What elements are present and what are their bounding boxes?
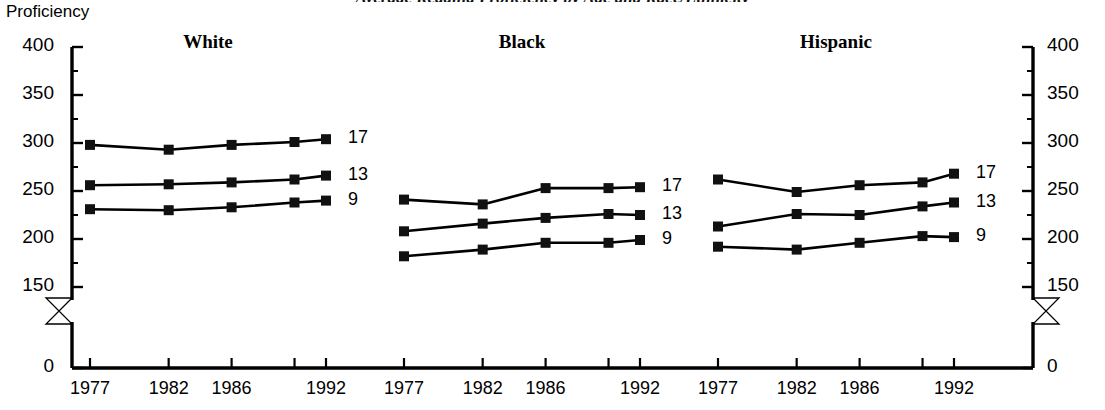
data-point-hispanic-age17-1977 bbox=[713, 175, 723, 185]
y-tick-label-right-150: 150 bbox=[1047, 274, 1093, 296]
y-tick-label-left-0: 0 bbox=[8, 355, 54, 377]
series-label-white-age9: 9 bbox=[348, 189, 358, 210]
data-point-hispanic-age13-1990 bbox=[918, 201, 928, 211]
data-point-black-age17-1992 bbox=[635, 182, 645, 192]
panel-title-black: Black bbox=[432, 31, 612, 53]
x-tick-label-white-1986: 1986 bbox=[199, 378, 265, 399]
data-point-black-age13-1977 bbox=[399, 226, 409, 236]
data-point-hispanic-age17-1982 bbox=[792, 187, 802, 197]
y-tick-label-left-300: 300 bbox=[8, 130, 54, 152]
panel-title-white: White bbox=[118, 31, 298, 53]
y-tick-label-right-400: 400 bbox=[1047, 34, 1093, 56]
series-label-black-age17: 17 bbox=[662, 175, 682, 196]
y-tick-label-right-200: 200 bbox=[1047, 226, 1093, 248]
data-point-black-age13-1992 bbox=[635, 210, 645, 220]
series-label-hispanic-age9: 9 bbox=[976, 225, 986, 246]
panel-title-hispanic: Hispanic bbox=[746, 31, 926, 53]
x-tick-label-white-1992: 1992 bbox=[293, 378, 359, 399]
data-point-hispanic-age13-1986 bbox=[855, 210, 865, 220]
y-tick-label-left-150: 150 bbox=[8, 274, 54, 296]
data-point-white-age17-1982 bbox=[164, 145, 174, 155]
data-point-white-age13-1982 bbox=[164, 179, 174, 189]
series-label-black-age9: 9 bbox=[662, 228, 672, 249]
data-point-white-age17-1986 bbox=[227, 140, 237, 150]
data-point-white-age13-1986 bbox=[227, 177, 237, 187]
x-tick-label-hispanic-1992: 1992 bbox=[921, 378, 987, 399]
data-point-black-age17-1977 bbox=[399, 195, 409, 205]
data-point-hispanic-age9-1992 bbox=[949, 232, 959, 242]
data-point-black-age17-1986 bbox=[541, 183, 551, 193]
x-tick-label-white-1982: 1982 bbox=[136, 378, 202, 399]
y-tick-label-left-400: 400 bbox=[8, 34, 54, 56]
data-point-black-age17-1990 bbox=[604, 183, 614, 193]
data-point-hispanic-age17-1990 bbox=[918, 177, 928, 187]
data-point-hispanic-age13-1992 bbox=[949, 198, 959, 208]
series-label-white-age17: 17 bbox=[348, 127, 368, 148]
data-point-black-age13-1990 bbox=[604, 209, 614, 219]
data-point-hispanic-age13-1982 bbox=[792, 209, 802, 219]
data-point-white-age9-1992 bbox=[321, 196, 331, 206]
data-point-black-age9-1990 bbox=[604, 238, 614, 248]
x-tick-label-black-1992: 1992 bbox=[607, 378, 673, 399]
x-tick-label-hispanic-1982: 1982 bbox=[764, 378, 830, 399]
data-point-black-age9-1992 bbox=[635, 235, 645, 245]
y-tick-label-left-350: 350 bbox=[8, 82, 54, 104]
data-point-white-age9-1990 bbox=[290, 198, 300, 208]
x-tick-label-black-1986: 1986 bbox=[513, 378, 579, 399]
y-tick-label-right-250: 250 bbox=[1047, 178, 1093, 200]
proficiency-trend-chart: Average Reading Proficiency by Age and R… bbox=[0, 0, 1105, 410]
axis-break-mark bbox=[1033, 298, 1059, 324]
x-tick-label-white-1977: 1977 bbox=[57, 378, 123, 399]
data-point-hispanic-age9-1990 bbox=[918, 231, 928, 241]
chart-canvas bbox=[0, 0, 1105, 410]
data-point-black-age13-1986 bbox=[541, 213, 551, 223]
data-point-white-age17-1992 bbox=[321, 134, 331, 144]
data-point-white-age13-1992 bbox=[321, 171, 331, 181]
axis-break-mark bbox=[46, 298, 72, 324]
data-point-hispanic-age9-1982 bbox=[792, 245, 802, 255]
data-point-white-age9-1986 bbox=[227, 202, 237, 212]
data-point-hispanic-age9-1986 bbox=[855, 238, 865, 248]
y-tick-label-right-350: 350 bbox=[1047, 82, 1093, 104]
data-point-black-age9-1982 bbox=[478, 245, 488, 255]
x-tick-label-black-1982: 1982 bbox=[450, 378, 516, 399]
series-label-hispanic-age17: 17 bbox=[976, 162, 996, 183]
y-tick-label-right-0: 0 bbox=[1047, 355, 1093, 377]
data-point-hispanic-age9-1977 bbox=[713, 242, 723, 252]
x-tick-label-hispanic-1977: 1977 bbox=[685, 378, 751, 399]
data-point-black-age13-1982 bbox=[478, 219, 488, 229]
data-point-white-age13-1977 bbox=[85, 180, 95, 190]
series-label-white-age13: 13 bbox=[348, 164, 368, 185]
data-point-white-age13-1990 bbox=[290, 175, 300, 185]
y-tick-label-right-300: 300 bbox=[1047, 130, 1093, 152]
series-label-hispanic-age13: 13 bbox=[976, 191, 996, 212]
data-point-white-age17-1977 bbox=[85, 140, 95, 150]
y-tick-label-left-200: 200 bbox=[8, 226, 54, 248]
data-point-white-age9-1977 bbox=[85, 204, 95, 214]
data-point-black-age17-1982 bbox=[478, 199, 488, 209]
data-point-white-age9-1982 bbox=[164, 205, 174, 215]
series-label-black-age13: 13 bbox=[662, 203, 682, 224]
data-point-hispanic-age17-1992 bbox=[949, 169, 959, 179]
x-tick-label-black-1977: 1977 bbox=[371, 378, 437, 399]
data-point-hispanic-age17-1986 bbox=[855, 180, 865, 190]
y-tick-label-left-250: 250 bbox=[8, 178, 54, 200]
data-point-black-age9-1977 bbox=[399, 251, 409, 261]
data-point-black-age9-1986 bbox=[541, 238, 551, 248]
x-tick-label-hispanic-1986: 1986 bbox=[827, 378, 893, 399]
data-point-hispanic-age13-1977 bbox=[713, 222, 723, 232]
data-point-white-age17-1990 bbox=[290, 137, 300, 147]
